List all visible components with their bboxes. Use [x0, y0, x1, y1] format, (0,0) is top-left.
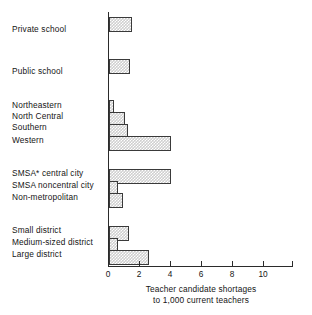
xtick-8 — [232, 261, 233, 267]
xtick-0 — [108, 261, 109, 267]
category-label-small-district: Small district — [12, 226, 61, 235]
category-label-public-school: Public school — [12, 67, 63, 76]
value-axis-title: Teacher candidate shortages to 1,000 cur… — [108, 284, 294, 306]
category-label-northeastern: Northeastern — [12, 101, 62, 110]
xtick-4 — [170, 261, 171, 267]
bar-western — [109, 136, 171, 151]
category-label-southern: Southern — [12, 123, 47, 132]
category-label-large-district: Large district — [12, 250, 62, 259]
value-axis-title-line-2: to 1,000 current teachers — [108, 295, 294, 306]
category-label-private-school: Private school — [12, 25, 66, 34]
bar-chart: Private school Public school Northeaster… — [0, 0, 312, 315]
xtick-label-4: 4 — [160, 269, 180, 279]
xtick-10 — [263, 261, 264, 267]
xtick-end — [292, 261, 293, 267]
bar-public-school — [109, 59, 130, 74]
category-label-smsa-noncentral-city: SMSA noncentral city — [12, 181, 94, 190]
xtick-label-0: 0 — [98, 269, 118, 279]
bar-large-district — [109, 250, 149, 265]
xtick-label-6: 6 — [191, 269, 211, 279]
category-label-medium-sized-district: Medium-sized district — [12, 238, 93, 247]
xtick-2 — [139, 261, 140, 267]
xtick-label-10: 10 — [253, 269, 273, 279]
value-axis-title-line-1: Teacher candidate shortages — [108, 284, 294, 295]
category-label-non-metropolitan: Non-metropolitan — [12, 193, 78, 202]
xtick-label-2: 2 — [129, 269, 149, 279]
category-label-north-central: North Central — [12, 112, 63, 121]
bar-smsa-central-city — [109, 169, 171, 184]
xtick-6 — [201, 261, 202, 267]
bar-non-metropolitan — [109, 193, 123, 208]
category-label-smsa-central-city: SMSA* central city — [12, 169, 83, 178]
plot-area — [108, 12, 298, 266]
xtick-label-8: 8 — [222, 269, 242, 279]
category-label-western: Western — [12, 136, 44, 145]
bar-private-school — [109, 17, 132, 32]
